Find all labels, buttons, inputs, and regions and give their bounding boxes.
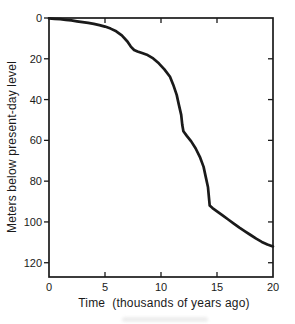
sea-level-depth-curve xyxy=(49,18,273,246)
axes-frame xyxy=(49,18,273,277)
y-tick-label: 120 xyxy=(24,257,42,269)
y-tick-label: 0 xyxy=(36,12,42,24)
y-tick-label: 20 xyxy=(30,53,42,65)
y-axis-title: Meters below present-day level xyxy=(5,61,19,233)
x-tick-label: 10 xyxy=(155,281,167,293)
caption-smudge xyxy=(122,317,208,322)
x-tick-label: 0 xyxy=(46,281,52,293)
y-tick-label: 80 xyxy=(30,175,42,187)
x-tick-label: 5 xyxy=(102,281,108,293)
y-tick-label: 40 xyxy=(30,94,42,106)
sea-level-chart-svg: 02040608010012005101520 xyxy=(0,0,295,324)
x-axis-title: Time (thousands of years ago) xyxy=(78,296,250,310)
y-tick-label: 100 xyxy=(24,216,42,228)
x-tick-label: 15 xyxy=(211,281,223,293)
sea-level-figure: 02040608010012005101520 Meters below pre… xyxy=(0,0,295,324)
y-tick-label: 60 xyxy=(30,134,42,146)
x-tick-label: 20 xyxy=(267,281,279,293)
